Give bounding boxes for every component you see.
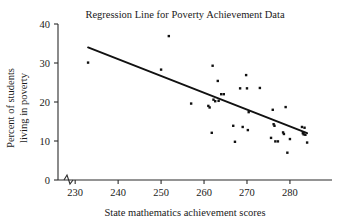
y-tick-label: 0 bbox=[45, 175, 50, 186]
data-point bbox=[272, 109, 274, 111]
data-point bbox=[303, 127, 305, 129]
data-point bbox=[239, 87, 241, 89]
data-point bbox=[223, 93, 225, 95]
data-point bbox=[306, 141, 308, 143]
x-tick-label: 240 bbox=[110, 187, 126, 198]
y-tick-label: 30 bbox=[40, 58, 51, 69]
x-tick-label: 230 bbox=[67, 187, 83, 198]
regression-line bbox=[88, 47, 307, 133]
data-point bbox=[208, 106, 210, 108]
chart-canvas: Regression Line for Poverty Achievement … bbox=[0, 0, 353, 224]
data-point bbox=[190, 102, 192, 104]
data-point bbox=[168, 35, 170, 37]
x-axis: 230240250260270280 bbox=[58, 180, 332, 198]
data-point bbox=[234, 141, 236, 143]
data-point bbox=[246, 87, 248, 89]
chart-title: Regression Line for Poverty Achievement … bbox=[85, 9, 284, 20]
scatter-chart-figure: Regression Line for Poverty Achievement … bbox=[0, 0, 353, 224]
regression-line-segment bbox=[88, 47, 307, 133]
data-point bbox=[217, 80, 219, 82]
data-point bbox=[277, 140, 279, 142]
x-tick-label: 250 bbox=[153, 187, 169, 198]
y-axis: 010203040 bbox=[40, 19, 59, 186]
y-tick-label: 40 bbox=[40, 19, 51, 30]
y-axis-label-line2: living in poverty bbox=[18, 72, 29, 143]
data-point bbox=[270, 137, 272, 139]
data-point bbox=[217, 100, 219, 102]
data-point bbox=[289, 138, 291, 140]
data-point bbox=[247, 129, 249, 131]
data-point bbox=[241, 126, 243, 128]
data-point bbox=[220, 93, 222, 95]
data-point bbox=[274, 140, 276, 142]
data-point bbox=[214, 100, 216, 102]
y-axis-label-line1: Percent of students bbox=[5, 68, 16, 148]
data-point bbox=[284, 106, 286, 108]
y-tick-label: 20 bbox=[40, 97, 51, 108]
x-tick-label: 260 bbox=[196, 187, 212, 198]
data-point bbox=[232, 125, 234, 127]
data-points-layer bbox=[87, 35, 308, 154]
data-point bbox=[211, 65, 213, 67]
data-point bbox=[259, 87, 261, 89]
data-point bbox=[245, 74, 247, 76]
y-tick-label: 10 bbox=[40, 136, 51, 147]
x-tick-label: 280 bbox=[282, 187, 298, 198]
x-tick-label: 270 bbox=[239, 187, 255, 198]
data-point bbox=[283, 133, 285, 135]
data-point bbox=[160, 68, 162, 70]
data-point bbox=[273, 125, 275, 127]
data-point bbox=[211, 132, 213, 134]
data-point bbox=[301, 126, 303, 128]
data-point bbox=[87, 61, 89, 63]
data-point bbox=[304, 134, 306, 136]
data-point bbox=[286, 152, 288, 154]
x-axis-label: State mathematics achievement scores bbox=[104, 207, 265, 218]
